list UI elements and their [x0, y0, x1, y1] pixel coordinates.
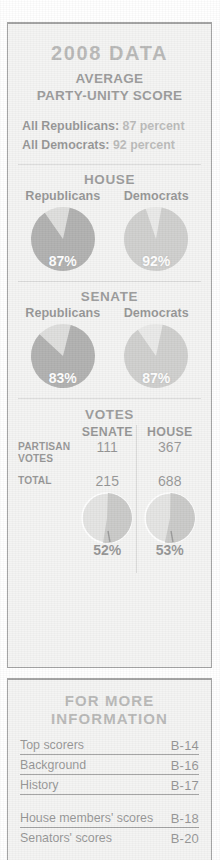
votes-header-spacer — [18, 425, 76, 427]
votes-header-senate: SENATE — [76, 425, 139, 439]
votes-row-total: TOTAL 215 688 — [18, 473, 201, 489]
house-democrats-value: 92% — [123, 253, 189, 269]
senate-republicans-pie: 83% — [30, 323, 96, 389]
main-data-panel: 2008 DATA AVERAGE PARTY-UNITY SCORE All … — [7, 22, 212, 668]
divider-after-senate — [18, 398, 201, 399]
chamber-house: HOUSE Republicans 87% Democrat — [16, 172, 203, 272]
summary-value-republicans: 87 percent — [123, 119, 185, 133]
chamber-senate: SENATE Republicans 83% Democra — [16, 289, 203, 389]
page-subtitle-line2: PARTY-UNITY SCORE — [16, 88, 203, 105]
summary-block: All Republicans: 87 percent All Democrat… — [16, 117, 203, 155]
info-title-line1: FOR MORE — [16, 692, 203, 710]
house-republicans-value: 87% — [30, 253, 96, 269]
list-item[interactable]: House members' scores B-18 — [20, 795, 199, 828]
list-item[interactable]: Background B-16 — [20, 755, 199, 775]
chamber-senate-title: SENATE — [16, 289, 203, 304]
votes-table: SENATE HOUSE PARTISAN VOTES 111 367 TOTA… — [16, 425, 203, 553]
page-subtitle-line1: AVERAGE — [16, 71, 203, 88]
chamber-house-title: HOUSE — [16, 172, 203, 187]
info-item-page: B-17 — [165, 778, 199, 793]
house-democrats-label: Democrats — [110, 189, 204, 203]
votes-row-total-label: TOTAL — [18, 473, 76, 486]
divider-after-house — [18, 281, 201, 282]
senate-democrats-label: Democrats — [110, 306, 204, 320]
summary-label-democrats: All Democrats: — [22, 138, 109, 152]
info-item-page: B-20 — [165, 831, 199, 846]
info-item-name: Top scorers — [20, 739, 84, 753]
senate-democrats-value: 87% — [123, 370, 189, 386]
info-item-name: Background — [20, 759, 86, 773]
votes-pies-row: 52% 53% — [18, 491, 201, 553]
list-item[interactable]: Senators' scores B-20 — [20, 828, 199, 847]
divider-after-summary — [18, 164, 201, 165]
senate-republicans-block: Republicans 83% — [16, 306, 110, 389]
house-republicans-label: Republicans — [16, 189, 110, 203]
votes-house-pie: 53% — [139, 491, 202, 553]
senate-republicans-label: Republicans — [16, 306, 110, 320]
summary-row-democrats: All Democrats: 92 percent — [22, 136, 197, 155]
info-item-name: History — [20, 779, 59, 793]
votes-total-house: 688 — [139, 473, 202, 489]
info-item-name: House members' scores — [20, 812, 153, 826]
senate-democrats-pie: 87% — [123, 323, 189, 389]
info-item-page: B-14 — [165, 738, 199, 753]
votes-partisan-senate: 111 — [76, 439, 139, 455]
votes-row-partisan-label: PARTISAN VOTES — [18, 439, 76, 464]
house-republicans-pie: 87% — [30, 206, 96, 272]
page-title: 2008 DATA — [16, 42, 203, 64]
list-item[interactable]: History B-17 — [20, 775, 199, 795]
votes-header-row: SENATE HOUSE — [18, 425, 201, 439]
votes-row-partisan-label-line2: VOTES — [18, 453, 76, 464]
summary-label-republicans: All Republicans: — [22, 119, 119, 133]
house-democrats-pie: 92% — [123, 206, 189, 272]
for-more-information-panel: FOR MORE INFORMATION Top scorers B-14 Ba… — [7, 678, 212, 860]
votes-senate-pie: 52% — [76, 491, 139, 553]
votes-house-pct: 53% — [139, 542, 202, 558]
senate-democrats-block: Democrats 87% — [110, 306, 204, 389]
info-list: Top scorers B-14 Background B-16 History… — [16, 735, 203, 847]
info-item-name: Senators' scores — [20, 832, 112, 846]
votes-row-partisan: PARTISAN VOTES 111 367 — [18, 439, 201, 464]
votes-partisan-house: 367 — [139, 439, 202, 455]
house-democrats-block: Democrats 92% — [110, 189, 204, 272]
votes-senate-pct: 52% — [76, 542, 139, 558]
votes-total-senate: 215 — [76, 473, 139, 489]
infographic-root: 2008 DATA AVERAGE PARTY-UNITY SCORE All … — [0, 0, 220, 860]
summary-row-republicans: All Republicans: 87 percent — [22, 117, 197, 136]
info-title-line2: INFORMATION — [16, 710, 203, 728]
summary-value-democrats: 92 percent — [113, 138, 175, 152]
info-item-page: B-16 — [165, 758, 199, 773]
votes-section-title: VOTES — [16, 407, 203, 422]
list-item[interactable]: Top scorers B-14 — [20, 735, 199, 755]
house-republicans-block: Republicans 87% — [16, 189, 110, 272]
info-item-page: B-18 — [165, 811, 199, 826]
votes-row-partisan-label-line1: PARTISAN — [18, 441, 76, 452]
senate-republicans-value: 83% — [30, 370, 96, 386]
votes-header-house: HOUSE — [139, 425, 202, 439]
